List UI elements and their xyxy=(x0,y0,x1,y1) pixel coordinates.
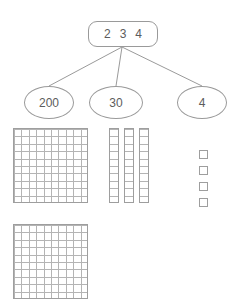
part-oval-hundreds: 200 xyxy=(24,86,74,119)
hundreds-flat-2 xyxy=(13,224,88,299)
ones-unit-1 xyxy=(199,150,208,159)
root-number-box: 2 3 4 xyxy=(88,21,158,47)
ones-unit-2 xyxy=(199,166,208,175)
part-value-ones: 4 xyxy=(199,97,206,109)
digit-hundreds: 2 xyxy=(104,28,111,40)
tens-rod-2 xyxy=(124,128,134,203)
part-oval-tens: 30 xyxy=(89,86,143,119)
link-to-hundreds xyxy=(49,47,122,86)
ones-unit-4 xyxy=(199,198,208,207)
root-digits: 2 3 4 xyxy=(104,28,142,40)
digit-ones: 4 xyxy=(135,28,142,40)
link-to-ones xyxy=(122,47,202,86)
tens-rod-1 xyxy=(109,128,119,203)
part-value-hundreds: 200 xyxy=(39,97,59,109)
hundreds-flat-1 xyxy=(13,128,88,203)
ones-unit-3 xyxy=(199,182,208,191)
tens-rod-3 xyxy=(139,128,149,203)
part-oval-ones: 4 xyxy=(177,86,227,119)
digit-tens: 3 xyxy=(120,28,127,40)
part-value-tens: 30 xyxy=(109,97,122,109)
link-to-tens xyxy=(116,47,122,86)
